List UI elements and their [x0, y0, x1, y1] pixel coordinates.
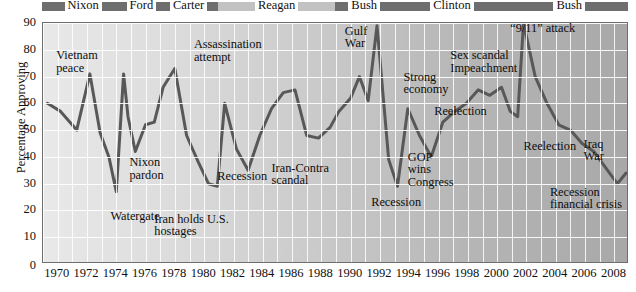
gridline-horizontal	[43, 237, 627, 238]
gridline-vertical	[43, 23, 44, 262]
approval-rating-chart: NixonFordCarterReaganBushClintonBush 102…	[0, 0, 636, 292]
president-label-bush-4: Bush	[348, 0, 380, 11]
y-axis-title: Percentage Approving	[14, 43, 29, 193]
chart-annotation: Iran-Contra scandal	[272, 162, 329, 187]
gridline-vertical	[131, 23, 132, 262]
chart-annotation: Recession	[217, 170, 267, 182]
gridline-horizontal	[43, 184, 627, 185]
chart-annotation: Recession	[371, 196, 421, 208]
chart-annotation: Assassination attempt	[194, 38, 262, 63]
x-axis-tick-1988: 1988	[308, 266, 333, 280]
chart-annotation: Iraq War	[584, 138, 604, 163]
chart-annotation: Recession financial crisis	[550, 186, 622, 211]
x-axis-tick-2004: 2004	[542, 266, 567, 280]
chart-annotation: Vietnam peace	[56, 49, 98, 74]
gridline-vertical	[336, 23, 337, 262]
chart-annotation: Iran holds U.S. hostages	[154, 213, 228, 238]
x-axis-tick-1994: 1994	[396, 266, 421, 280]
gridline-vertical	[116, 23, 117, 262]
gridline-vertical	[263, 23, 264, 262]
y-axis-tick-10: 10	[24, 230, 37, 242]
gridline-vertical	[277, 23, 278, 262]
x-axis-tick-1992: 1992	[366, 266, 391, 280]
x-axis-tick-1980: 1980	[191, 266, 216, 280]
plot-area: Vietnam peaceWatergateNixon pardonIran h…	[42, 22, 628, 263]
gridline-horizontal	[43, 130, 627, 131]
gridline-vertical	[424, 23, 425, 262]
x-axis-tick-1998: 1998	[454, 266, 479, 280]
x-axis-tick-1996: 1996	[425, 266, 450, 280]
chart-annotation: Watergate	[110, 210, 159, 222]
president-label-ford-1: Ford	[127, 0, 157, 11]
gridline-vertical	[146, 23, 147, 262]
x-axis-tick-1976: 1976	[132, 266, 157, 280]
gridline-vertical	[395, 23, 396, 262]
gridline-vertical	[321, 23, 322, 262]
chart-annotation: Sex scandal Impeachment	[450, 49, 517, 74]
gridline-vertical	[365, 23, 366, 262]
gridline-vertical	[102, 23, 103, 262]
x-axis-tick-1984: 1984	[249, 266, 274, 280]
gridline-vertical	[439, 23, 440, 262]
x-axis-tick-1990: 1990	[337, 266, 362, 280]
gridline-horizontal	[43, 103, 627, 104]
x-axis-tick-1970: 1970	[44, 266, 69, 280]
chart-annotation: Strong economy	[403, 71, 448, 96]
x-axis-tick-1972: 1972	[73, 266, 98, 280]
gridline-horizontal	[43, 50, 627, 51]
chart-annotation: Nixon pardon	[129, 156, 163, 181]
y-axis-tick-20: 20	[24, 203, 37, 215]
gridline-vertical	[351, 23, 352, 262]
gridline-horizontal	[43, 77, 627, 78]
x-axis-tick-1974: 1974	[103, 266, 128, 280]
y-axis-zero-label: 0	[0, 258, 40, 273]
president-label-reagan-3: Reagan	[255, 0, 298, 11]
president-label-nixon-0: Nixon	[65, 0, 102, 11]
president-timeline-bar: NixonFordCarterReaganBushClintonBush	[42, 2, 628, 11]
chart-annotation: “9/11” attack	[510, 22, 575, 34]
chart-annotation: Reelection	[524, 140, 577, 152]
gridline-vertical	[380, 23, 381, 262]
x-axis-tick-2006: 2006	[572, 266, 597, 280]
gridline-vertical	[307, 23, 308, 262]
y-axis-tick-90: 90	[24, 16, 37, 28]
x-axis-tick-2000: 2000	[484, 266, 509, 280]
chart-annotation: Reelection	[434, 105, 487, 117]
president-label-bush-6: Bush	[553, 0, 585, 11]
chart-annotation: GOP wins Congress	[408, 151, 454, 188]
x-axis-tick-1978: 1978	[161, 266, 186, 280]
x-axis-tick-labels: 1970197219741976197819801982198419861988…	[42, 266, 628, 286]
x-axis-tick-1982: 1982	[220, 266, 245, 280]
x-axis-tick-2002: 2002	[513, 266, 538, 280]
gridline-vertical	[292, 23, 293, 262]
president-label-clinton-5: Clinton	[430, 0, 474, 11]
gridline-vertical	[614, 23, 615, 262]
x-axis-tick-2008: 2008	[601, 266, 626, 280]
gridline-vertical	[409, 23, 410, 262]
chart-annotation: Gulf War	[345, 25, 368, 50]
president-label-carter-2: Carter	[170, 0, 207, 11]
x-axis-tick-1986: 1986	[279, 266, 304, 280]
